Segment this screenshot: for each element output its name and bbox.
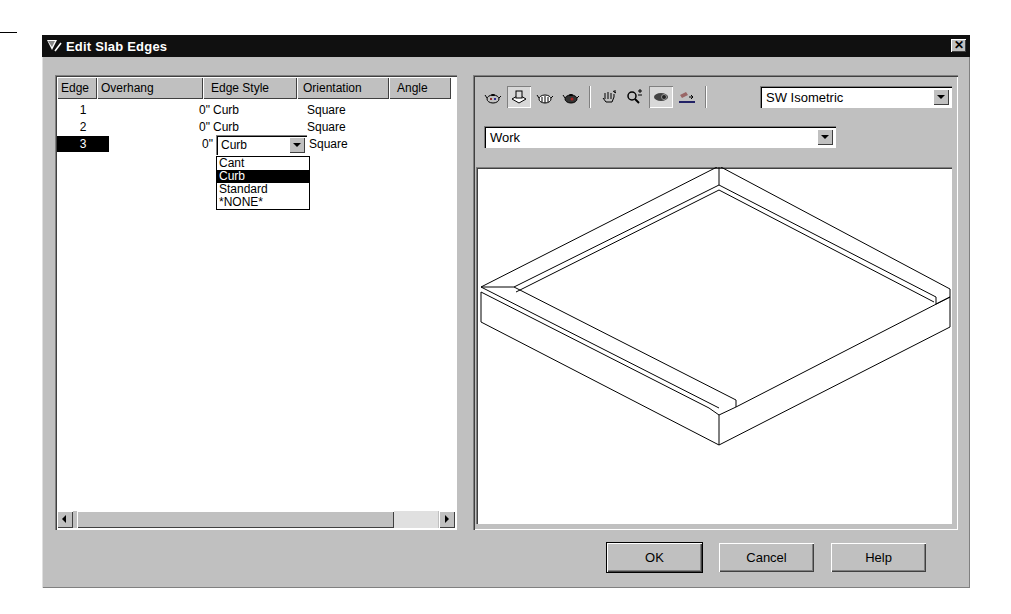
flat-shade-icon[interactable] [675,86,699,108]
table-header: Edge Overhang Edge Style Orientation Ang… [57,77,451,99]
orientation-value[interactable]: Square [307,119,346,135]
column-header-edge-style[interactable]: Edge Style [203,77,297,99]
edge-style-value[interactable]: Curb [213,102,239,118]
table-row[interactable]: 2 0" Curb Square [57,119,455,135]
horizontal-scrollbar[interactable] [57,511,455,528]
help-button[interactable]: Help [831,543,926,572]
edge-number: 3 [57,136,109,152]
edge-style-dropdown-list: Cant Curb Standard *NONE* [216,156,310,210]
teapot-shaded-icon[interactable] [559,86,583,108]
overhang-value[interactable]: 0" [109,102,213,118]
scroll-thumb[interactable] [77,511,394,528]
orientation-value[interactable]: Square [307,102,346,118]
close-button[interactable]: ✕ [951,39,966,52]
table-row[interactable]: 1 0" Curb Square [57,102,455,118]
overhang-value[interactable]: 0" [109,119,213,135]
zoom-icon[interactable] [623,86,647,108]
edge-number: 2 [57,119,109,135]
layer-select[interactable]: Work [484,126,836,148]
teapot-hidden-icon[interactable] [533,86,557,108]
object-viewer: SW Isometric Work [473,75,958,530]
scroll-track[interactable] [394,511,438,528]
chevron-down-icon[interactable] [817,129,833,145]
view-direction-value: SW Isometric [766,90,843,105]
edge-style-value[interactable]: Curb [213,119,239,135]
toolbar-separator [589,86,591,108]
dialog-title: Edit Slab Edges [66,39,167,54]
overhang-value[interactable]: 0" [109,136,216,152]
orbit-eye-icon[interactable] [649,86,673,108]
edge-style-combo[interactable]: Curb [216,135,307,155]
orientation-value[interactable]: Square [309,136,348,152]
slab-isometric-drawing [476,167,952,524]
column-header-angle[interactable]: Angle [389,77,451,99]
teapot-wireframe-icon[interactable] [481,86,505,108]
cancel-button[interactable]: Cancel [719,543,814,572]
scroll-left-icon[interactable] [57,511,73,528]
edges-list[interactable]: Edge Overhang Edge Style Orientation Ang… [55,75,457,530]
slab-object-icon[interactable] [507,86,531,108]
view-direction-select[interactable]: SW Isometric [760,86,952,108]
pan-hand-icon[interactable] [597,86,621,108]
table-row-selected[interactable]: 3 0" Curb Square Cant Curb Standard *NON… [57,136,455,152]
chevron-down-icon[interactable] [289,137,305,153]
scroll-right-icon[interactable] [439,511,455,528]
layer-value: Work [490,130,520,145]
ok-button[interactable]: OK [607,543,702,572]
slab-app-icon [46,38,62,54]
edge-number: 1 [57,102,109,118]
dropdown-option-none[interactable]: *NONE* [217,196,309,209]
decorative-line [0,32,17,33]
column-header-overhang[interactable]: Overhang [97,77,203,99]
3d-preview-canvas[interactable] [476,167,952,524]
toolbar-separator [705,86,707,108]
close-icon: ✕ [954,38,964,52]
viewer-toolbar [481,85,713,109]
title-bar: Edit Slab Edges ✕ [42,35,970,57]
chevron-down-icon[interactable] [933,89,949,105]
column-header-edge[interactable]: Edge [57,77,97,99]
edge-style-combo-value: Curb [221,138,247,152]
edit-slab-edges-dialog: Edit Slab Edges ✕ Edge Overhang Edge Sty… [42,35,970,588]
column-header-orientation[interactable]: Orientation [297,77,389,99]
